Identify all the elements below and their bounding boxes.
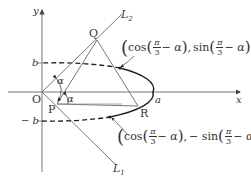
point-Q-label: Q: [89, 28, 98, 39]
angle-alpha-upper-label: α: [57, 76, 64, 86]
line-L2: [42, 14, 122, 92]
lower-point-coordinates: ( cos ( π3 − α ) , − sin ( π3 − α ) ): [117, 127, 251, 146]
upper-point-coordinates: ( cos ( π3 − α ) , sin ( π3 − α ) ): [121, 38, 251, 57]
fraction-pi-over-3: π3: [149, 127, 156, 146]
x-axis-label: x: [236, 95, 242, 105]
line-L1-label: L1: [113, 163, 125, 177]
point-lower-intersection: [108, 115, 111, 118]
a-label: a: [155, 95, 161, 105]
neg-b-label: − b: [21, 116, 39, 126]
point-R-label: R: [140, 108, 148, 119]
b-label: b: [32, 58, 38, 68]
fraction-pi-over-3: π3: [153, 38, 160, 57]
fraction-pi-over-3: π3: [216, 38, 223, 57]
origin-label: O: [32, 94, 41, 105]
y-axis-label: y: [33, 6, 39, 16]
angle-alpha-lower-label: α: [67, 94, 74, 104]
point-P-label: P: [48, 104, 55, 115]
fraction-pi-over-3: π3: [225, 127, 232, 146]
line-L2-label: L2: [121, 9, 133, 23]
